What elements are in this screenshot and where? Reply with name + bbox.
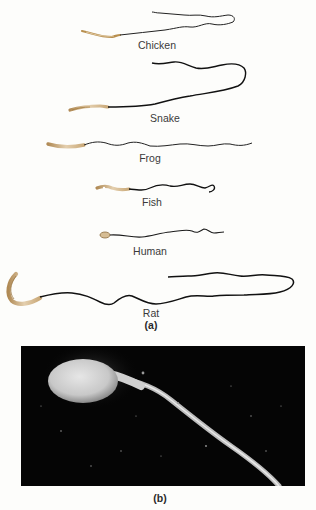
species-label-snake: Snake xyxy=(150,112,180,124)
panel-b-label: (b) xyxy=(153,492,166,504)
sperm-micrograph-image xyxy=(21,346,305,486)
panel-a-label: (a) xyxy=(145,319,158,331)
chicken-sperm-icon xyxy=(82,12,234,37)
rat-sperm-icon xyxy=(9,273,294,305)
species-label-rat: Rat xyxy=(143,307,159,319)
human-sperm-icon xyxy=(100,229,224,238)
panel-a-drawings xyxy=(0,0,316,340)
sperm-morphology-figure: Chicken Snake Frog Fish Human Rat (a) xyxy=(0,0,316,510)
frog-sperm-icon xyxy=(48,142,252,147)
species-label-fish: Fish xyxy=(142,196,162,208)
snake-sperm-icon xyxy=(70,62,246,110)
species-label-frog: Frog xyxy=(139,152,161,164)
species-label-human: Human xyxy=(133,245,167,257)
species-label-chicken: Chicken xyxy=(138,39,176,51)
fish-sperm-icon xyxy=(97,184,215,192)
